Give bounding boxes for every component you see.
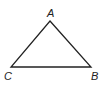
vertex-label-b: B bbox=[91, 70, 98, 82]
triangle-abc bbox=[11, 21, 91, 67]
vertex-label-c: C bbox=[4, 70, 12, 82]
triangle-diagram: A B C bbox=[0, 0, 110, 92]
vertex-label-a: A bbox=[46, 7, 54, 19]
